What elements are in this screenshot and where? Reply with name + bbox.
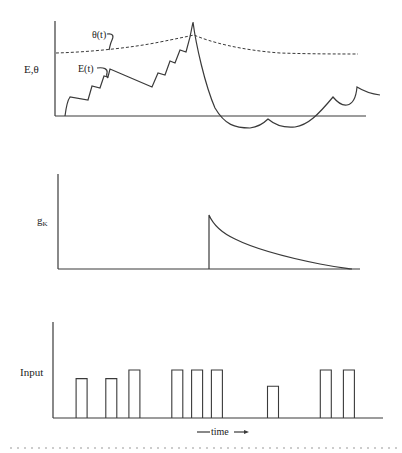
time-label: time bbox=[211, 426, 229, 437]
input-pulse bbox=[172, 370, 183, 418]
input-pulse bbox=[343, 370, 354, 418]
energy-label: E(t) bbox=[78, 63, 94, 75]
panel-conductance: gK bbox=[37, 174, 360, 269]
panel-energy-threshold: E,θ θ(t) E(t) bbox=[24, 21, 380, 128]
theta-label: θ(t) bbox=[92, 29, 106, 41]
input-pulses bbox=[76, 370, 354, 418]
input-pulse bbox=[129, 370, 140, 418]
time-arrow-icon bbox=[244, 430, 249, 434]
input-pulse bbox=[268, 386, 279, 418]
input-pulse bbox=[76, 379, 87, 418]
theta-pointer bbox=[107, 34, 113, 50]
energy-pointer bbox=[97, 68, 108, 78]
input-pulse bbox=[320, 370, 331, 418]
conductance-curve bbox=[209, 215, 352, 269]
input-pulse bbox=[106, 379, 117, 418]
top-ylabel: E,θ bbox=[24, 63, 39, 75]
input-pulse bbox=[211, 370, 222, 418]
middle-ylabel: gK bbox=[37, 214, 48, 228]
panel-input: Input time bbox=[20, 322, 383, 437]
diagram-canvas: E,θ θ(t) E(t) gK Input time bbox=[0, 0, 402, 453]
bottom-ylabel: Input bbox=[20, 366, 43, 378]
gk-subscript: K bbox=[43, 220, 48, 228]
input-pulse bbox=[192, 370, 203, 418]
